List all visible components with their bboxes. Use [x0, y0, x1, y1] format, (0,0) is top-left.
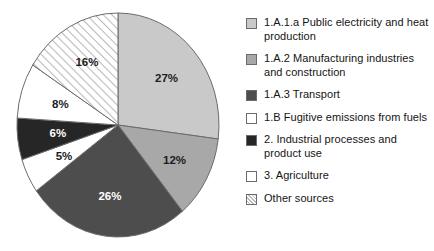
pie-slice-value-label: 26% — [98, 190, 121, 202]
legend-item[interactable]: 2. Industrial processes and product use — [246, 133, 432, 160]
legend-swatch-icon — [246, 113, 257, 124]
pie-chart-plot-area: 27%12%26%5%6%8%16% — [14, 11, 222, 241]
legend-item-label: 1.B Fugitive emissions from fuels — [264, 111, 427, 125]
legend-item-label: 1.A.1.a Public electricity and heat prod… — [264, 16, 432, 43]
pie-slice-value-label: 27% — [155, 72, 178, 84]
legend-item[interactable]: 1.A.1.a Public electricity and heat prod… — [246, 16, 432, 43]
legend-item[interactable]: 1.A.2 Manufacturing industries and const… — [246, 52, 432, 79]
legend-item[interactable]: 3. Agriculture — [246, 169, 432, 183]
legend-swatch-icon — [246, 90, 257, 101]
legend-swatch-icon — [246, 18, 257, 29]
legend-item-label: 1.A.3 Transport — [264, 88, 340, 102]
pie-slice-value-label: 8% — [52, 98, 69, 110]
pie-slice-value-label: 6% — [50, 127, 67, 139]
legend-item[interactable]: 1.A.3 Transport — [246, 88, 432, 102]
legend-item-label: 3. Agriculture — [264, 169, 329, 183]
pie-slice-value-label: 16% — [75, 56, 98, 68]
legend-item[interactable]: Other sources — [246, 192, 432, 206]
legend-swatch-icon — [246, 54, 257, 65]
pie-slices-group — [17, 13, 219, 237]
pie-chart-figure: 27%12%26%5%6%8%16% 1.A.1.a Public electr… — [0, 0, 434, 251]
pie-chart-svg: 27%12%26%5%6%8%16% — [14, 11, 222, 241]
legend-item-label: 1.A.2 Manufacturing industries and const… — [264, 52, 432, 79]
pie-slice-value-label: 5% — [56, 150, 73, 162]
legend-item-label: 2. Industrial processes and product use — [264, 133, 432, 160]
chart-legend: 1.A.1.a Public electricity and heat prod… — [246, 16, 432, 205]
legend-swatch-icon — [246, 171, 257, 182]
legend-item-label: Other sources — [264, 192, 334, 206]
legend-swatch-icon — [246, 135, 257, 146]
legend-swatch-icon — [246, 194, 257, 205]
legend-item[interactable]: 1.B Fugitive emissions from fuels — [246, 111, 432, 125]
pie-slice-value-label: 12% — [163, 154, 186, 166]
